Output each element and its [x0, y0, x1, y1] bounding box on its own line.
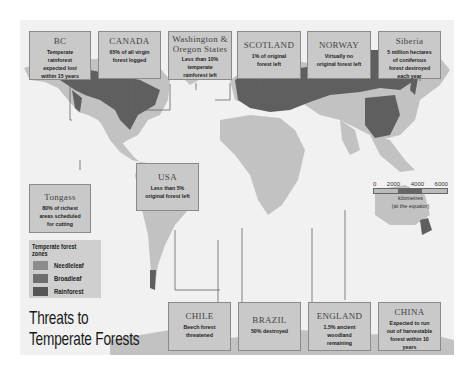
callout-text: Less than 5% original forest left	[142, 184, 194, 200]
needleleaf-swatch	[33, 261, 48, 270]
callout-text: 65% of all virgin forest logged	[104, 48, 156, 64]
legend-item-rainforest: Rainforest	[33, 287, 101, 296]
callout-text: Expected to run out of harvestable fores…	[384, 319, 436, 351]
callout-title: NORWAY	[308, 40, 370, 50]
callout-text: 1% of original forest left	[243, 52, 296, 68]
scale-bar: 0 2000 4000 6000 kilometres (at the equa…	[373, 181, 448, 210]
legend-item-broadleaf: Broadleaf	[33, 274, 101, 283]
scale-tick: 6000	[435, 181, 448, 187]
callout-text: 80% of richest areas scheduled for cutti…	[35, 204, 86, 228]
legend-item-needleleaf: Needleleaf	[33, 261, 101, 270]
title-line-2: Temperate Forests	[29, 328, 139, 349]
callout-title: CHILE	[169, 311, 230, 321]
callout-tongass: Tongass 80% of richest areas scheduled f…	[29, 184, 91, 233]
callout-bc: BC Temperate rainforest expected lost wi…	[29, 31, 91, 80]
callout-title: BC	[30, 36, 90, 46]
legend-label: Rainforest	[54, 288, 83, 295]
callout-siberia: Siberia 5 million hectares of coniferous…	[378, 31, 441, 79]
legend-label: Needleleaf	[54, 262, 84, 269]
callout-title: Tongass	[30, 192, 90, 202]
callout-title: CHINA	[379, 307, 440, 317]
callout-norway: NORWAY Virtually no original forest left	[307, 31, 371, 79]
rainforest-swatch	[33, 287, 48, 296]
legend: Temperate forest zones Needleleaf Broadl…	[29, 240, 101, 298]
callout-chile: CHILE Beech forest threatened	[168, 302, 231, 351]
legend-label: Broadleaf	[54, 275, 81, 282]
broadleaf-swatch	[33, 274, 48, 283]
map-title: Threats to Temperate Forests	[29, 307, 139, 349]
scale-unit: kilometres	[373, 195, 448, 202]
callout-text: 50% destroyed	[244, 327, 296, 335]
callout-text: Less than 10% temperate rainforest left	[174, 55, 227, 79]
callout-text: 5 million hectares of coniferous forest …	[384, 48, 436, 80]
scale-tick: 4000	[411, 181, 424, 187]
callout-title: USA	[137, 172, 198, 182]
callout-title: BRAZIL	[239, 315, 300, 325]
callout-england: ENGLAND 1.5% ancient woodland remaining	[308, 302, 371, 351]
callout-title: Washington & Oregon States	[169, 34, 231, 54]
callout-title: ENGLAND	[309, 311, 370, 321]
callout-china: CHINA Expected to run out of harvestable…	[378, 302, 441, 351]
callout-brazil: BRAZIL 50% destroyed	[238, 302, 301, 351]
callout-title: SCOTLAND	[238, 40, 300, 50]
callout-text: Beech forest threatened	[174, 323, 226, 339]
scale-ticks: 0 2000 4000 6000	[373, 181, 448, 187]
callout-scotland: SCOTLAND 1% of original forest left	[237, 31, 301, 79]
callout-text: Temperate rainforest expected lost withi…	[35, 48, 86, 80]
callout-text: Virtually no original forest left	[313, 52, 366, 68]
callout-text: 1.5% ancient woodland remaining	[314, 323, 366, 347]
callout-title: Siberia	[379, 36, 440, 46]
scale-tick: 0	[373, 181, 376, 187]
callout-canada: CANADA 65% of all virgin forest logged	[98, 31, 161, 79]
scale-note: (at the equator)	[373, 203, 448, 210]
scale-tick: 2000	[387, 181, 400, 187]
title-line-1: Threats to	[29, 307, 139, 328]
scale-graphic	[373, 188, 448, 194]
callout-washington-oregon: Washington & Oregon States Less than 10%…	[168, 31, 232, 80]
callout-usa: USA Less than 5% original forest left	[136, 163, 199, 211]
callout-title: CANADA	[99, 36, 160, 46]
legend-title: Temperate forest zones	[32, 243, 91, 257]
